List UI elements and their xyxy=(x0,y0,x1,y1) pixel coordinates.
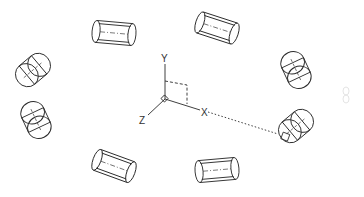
coordinate-axes xyxy=(148,64,278,134)
ucs-marker xyxy=(281,132,290,141)
cylinder-right-lower xyxy=(274,105,319,148)
diagram-canvas: Y X Z xyxy=(0,0,364,197)
xy-plane-dashed xyxy=(165,81,187,104)
cylinder-top-left xyxy=(91,20,137,46)
cylinder-bottom-left xyxy=(90,148,139,184)
z-axis xyxy=(148,99,165,115)
x-axis-label: X xyxy=(201,107,208,118)
cylinder-left-lower xyxy=(17,98,55,143)
cylinder-bottom-right xyxy=(194,157,240,183)
cylinder-right-upper xyxy=(277,48,315,93)
dotted-leader xyxy=(208,112,278,134)
y-axis-label: Y xyxy=(161,53,168,64)
x-axis xyxy=(165,99,200,110)
origin-marker xyxy=(161,95,168,102)
faint-glyph-icon xyxy=(343,87,349,103)
cylinder-left-upper xyxy=(11,49,56,92)
z-axis-label: Z xyxy=(139,115,145,126)
cylinder-top-right xyxy=(193,11,242,46)
